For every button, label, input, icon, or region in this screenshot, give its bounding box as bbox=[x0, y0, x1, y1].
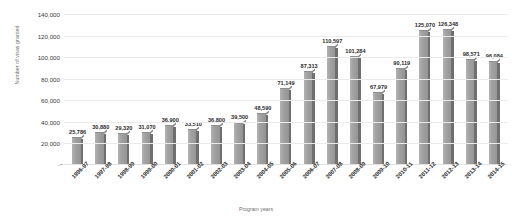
bar-value-label: 30,880 bbox=[92, 124, 109, 130]
y-axis-tick-60000: 60,000 bbox=[22, 97, 60, 104]
y-axis-tick-100000: 100,000 bbox=[22, 54, 60, 61]
x-label-slot: 2001-02 bbox=[182, 166, 205, 206]
x-label-slot: 2012-13 bbox=[437, 166, 460, 206]
bar[interactable]: 48,590 bbox=[257, 113, 268, 165]
bar[interactable]: 29,320 bbox=[118, 133, 129, 165]
bar[interactable]: 36,900 bbox=[165, 125, 176, 165]
gridline-140000 bbox=[64, 14, 508, 15]
y-axis-tick-labels: 140,000120,000100,00080,00060,00040,0002… bbox=[22, 0, 60, 165]
bar-side-face bbox=[405, 70, 408, 165]
bar-side-face bbox=[196, 131, 199, 165]
bar-slot: 29,320 bbox=[112, 14, 135, 165]
x-label-slot: 2005-06 bbox=[274, 166, 297, 206]
bar[interactable]: 30,880 bbox=[95, 132, 106, 165]
bar-value-label: 48,590 bbox=[254, 105, 271, 111]
x-label-slot: 1997-98 bbox=[89, 166, 112, 206]
x-label-slot: 2013-14 bbox=[460, 166, 483, 206]
bar-side-face bbox=[335, 48, 338, 165]
bar-value-label: 126,348 bbox=[438, 21, 458, 27]
bar-series: 25,78630,88029,32031,07036,90033,51036,8… bbox=[64, 14, 508, 165]
x-label-slot: 2008-09 bbox=[344, 166, 367, 206]
x-axis-title: Program years bbox=[0, 206, 512, 212]
gridline-40000 bbox=[64, 122, 508, 123]
x-label-slot: 2002-03 bbox=[205, 166, 228, 206]
bar-value-label: 39,500 bbox=[231, 114, 248, 120]
x-label-slot: 2007-08 bbox=[321, 166, 344, 206]
bar-value-label: 71,149 bbox=[277, 80, 294, 86]
bar-side-face bbox=[428, 32, 431, 165]
bar-slot: 101,284 bbox=[344, 14, 367, 165]
x-label-slot: 1998-99 bbox=[112, 166, 135, 206]
bar-chart: Number of visas granted 140,000120,00010… bbox=[0, 0, 512, 223]
x-label-slot: 2014-15 bbox=[483, 166, 506, 206]
bar-slot: 125,070 bbox=[413, 14, 436, 165]
gridline-120000 bbox=[64, 36, 508, 37]
bar[interactable]: 31,070 bbox=[142, 132, 153, 166]
y-axis-tick-0: - bbox=[22, 162, 60, 168]
axis-origin-tick bbox=[60, 164, 63, 165]
bar-slot: 98,571 bbox=[460, 14, 483, 165]
x-label-slot: 2004-05 bbox=[251, 166, 274, 206]
bar-slot: 96,084 bbox=[483, 14, 506, 165]
bar-side-face bbox=[150, 134, 153, 166]
gridline-60000 bbox=[64, 100, 508, 101]
bar-slot: 39,500 bbox=[228, 14, 251, 165]
y-axis-tick-20000: 20,000 bbox=[22, 140, 60, 147]
x-label-slot: 2003-04 bbox=[228, 166, 251, 206]
gridline-80000 bbox=[64, 79, 508, 80]
x-label-slot: 1999-00 bbox=[135, 166, 158, 206]
bar[interactable]: 33,510 bbox=[188, 129, 199, 165]
bar-value-label: 31,070 bbox=[138, 124, 155, 130]
x-label-slot: 2010-11 bbox=[390, 166, 413, 206]
x-axis-category-labels: 1996-971997-981998-991999-002000-012001-… bbox=[64, 166, 508, 206]
bar[interactable]: 67,979 bbox=[373, 92, 384, 165]
y-axis-tick-80000: 80,000 bbox=[22, 75, 60, 82]
bar-side-face bbox=[451, 31, 454, 165]
gridline-100000 bbox=[64, 57, 508, 58]
bar-side-face bbox=[312, 73, 315, 165]
x-label-slot: 2011-12 bbox=[413, 166, 436, 206]
bar-value-label: 110,597 bbox=[322, 38, 342, 44]
bar-slot: 36,900 bbox=[159, 14, 182, 165]
bar-slot: 67,979 bbox=[367, 14, 390, 165]
x-label-slot: 1996-97 bbox=[66, 166, 89, 206]
bar-slot: 31,070 bbox=[135, 14, 158, 165]
bar-value-label: 98,571 bbox=[463, 51, 480, 57]
bar-slot: 48,590 bbox=[251, 14, 274, 165]
bar-value-label: 101,284 bbox=[345, 48, 365, 54]
bar-side-face bbox=[382, 94, 385, 165]
bar-value-label: 67,979 bbox=[370, 84, 387, 90]
bar[interactable]: 87,313 bbox=[304, 71, 315, 165]
bar[interactable]: 101,284 bbox=[350, 56, 361, 165]
y-axis-tick-120000: 120,000 bbox=[22, 32, 60, 39]
bar[interactable]: 126,348 bbox=[443, 29, 454, 165]
bar-side-face bbox=[104, 134, 107, 165]
x-label-slot: 2000-01 bbox=[159, 166, 182, 206]
y-axis-title: Number of visas granted bbox=[14, 0, 20, 110]
bar-side-face bbox=[358, 58, 361, 165]
x-label-slot: 2009-10 bbox=[367, 166, 390, 206]
bar[interactable]: 90,119 bbox=[396, 68, 407, 165]
bar[interactable]: 110,597 bbox=[327, 46, 338, 165]
bar[interactable]: 125,070 bbox=[419, 30, 430, 165]
bar-slot: 36,800 bbox=[205, 14, 228, 165]
bar-slot: 71,149 bbox=[274, 14, 297, 165]
bar-slot: 87,313 bbox=[298, 14, 321, 165]
y-axis-tick-140000: 140,000 bbox=[22, 11, 60, 18]
bar-side-face bbox=[173, 127, 176, 165]
bar-slot: 30,880 bbox=[89, 14, 112, 165]
bar[interactable]: 25,786 bbox=[72, 137, 83, 165]
bar-value-label: 25,786 bbox=[69, 129, 86, 135]
bar[interactable]: 96,084 bbox=[489, 61, 500, 165]
bar-value-label: 87,313 bbox=[301, 63, 318, 69]
bar[interactable]: 98,571 bbox=[466, 59, 477, 165]
bar[interactable]: 36,800 bbox=[211, 125, 222, 165]
bar-side-face bbox=[474, 61, 477, 165]
bar-side-face bbox=[243, 124, 246, 165]
y-axis-tick-40000: 40,000 bbox=[22, 118, 60, 125]
x-label-slot: 2006-07 bbox=[298, 166, 321, 206]
bar-slot: 33,510 bbox=[182, 14, 205, 165]
bar-value-label: 29,320 bbox=[115, 125, 132, 131]
gridline-20000 bbox=[64, 143, 508, 144]
bar-side-face bbox=[289, 90, 292, 165]
